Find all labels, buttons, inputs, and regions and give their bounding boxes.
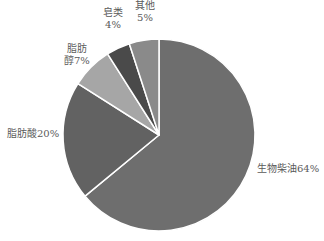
label-fatty-acid: 脂肪酸20% <box>7 128 59 140</box>
label-soap: 皂类 4% <box>103 7 123 31</box>
label-fatty-alcohol-line2: 醇7% <box>64 55 90 67</box>
pie-chart <box>0 0 324 241</box>
label-soap-line2: 4% <box>103 19 123 31</box>
label-fatty-alcohol: 脂肪 醇7% <box>64 43 90 67</box>
label-other-line1: 其他 <box>135 0 155 12</box>
label-soap-line1: 皂类 <box>103 7 123 19</box>
label-other: 其他 5% <box>135 0 155 24</box>
label-other-line2: 5% <box>135 12 155 24</box>
label-biodiesel: 生物柴油64% <box>257 163 319 175</box>
label-fatty-alcohol-line1: 脂肪 <box>64 43 90 55</box>
